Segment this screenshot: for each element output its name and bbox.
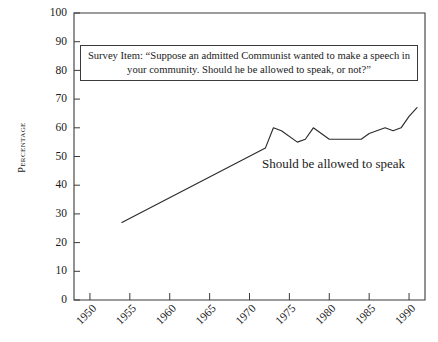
x-tick-label-1990: 1990: [393, 302, 418, 327]
x-axis-ticks: 195019551960196519701975198019851990: [74, 293, 418, 327]
y-tick-label-50: 50: [56, 150, 68, 162]
x-tick-label-1965: 1965: [193, 302, 218, 327]
survey-item-line-1: Survey Item: “Suppose an admitted Commun…: [88, 49, 410, 63]
y-tick-label-20: 20: [56, 236, 68, 248]
x-tick-label-1980: 1980: [313, 302, 338, 327]
y-tick-label-10: 10: [56, 264, 68, 276]
x-tick-label-1985: 1985: [353, 302, 378, 327]
y-tick-label-100: 100: [50, 6, 68, 18]
y-tick-label-40: 40: [56, 178, 68, 190]
y-tick-label-0: 0: [61, 293, 67, 305]
x-tick-label-1975: 1975: [273, 302, 298, 327]
survey-item-box: Survey Item: “Suppose an admitted Commun…: [80, 45, 418, 81]
x-tick-label-1955: 1955: [114, 302, 139, 327]
y-tick-label-70: 70: [56, 92, 68, 104]
y-axis-ticks: 0102030405060708090100: [50, 6, 80, 305]
x-tick-label-1970: 1970: [233, 302, 258, 327]
y-tick-label-80: 80: [56, 64, 68, 76]
x-tick-label-1950: 1950: [74, 302, 99, 327]
chart-figure: Percentage 0102030405060708090100 195019…: [0, 0, 438, 342]
y-tick-label-30: 30: [56, 207, 68, 219]
y-tick-label-60: 60: [56, 121, 68, 133]
x-tick-label-1960: 1960: [153, 302, 178, 327]
series-annotation-label: Should be allowed to speak: [262, 156, 405, 172]
survey-item-line-2: your community. Should he be allowed to …: [127, 63, 371, 77]
y-tick-label-90: 90: [56, 35, 68, 47]
